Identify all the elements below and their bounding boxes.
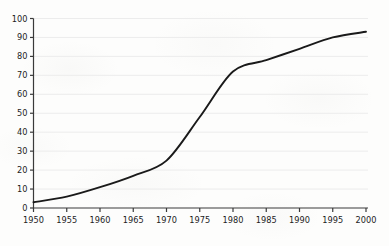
x-tick-label: 1965 bbox=[123, 215, 144, 225]
y-tick-label: 0 bbox=[22, 203, 27, 213]
y-tick-label: 60 bbox=[17, 89, 27, 99]
line-chart: 0102030405060708090100195019551960196519… bbox=[0, 0, 389, 246]
y-tick-label: 40 bbox=[17, 127, 27, 137]
x-tick-label: 1960 bbox=[90, 215, 111, 225]
y-tick-label: 80 bbox=[17, 51, 27, 61]
y-tick-label: 50 bbox=[17, 108, 27, 118]
data-line-series-0 bbox=[34, 32, 367, 203]
x-tick-label: 1995 bbox=[322, 215, 343, 225]
gridlines bbox=[34, 19, 369, 190]
y-tick-label: 100 bbox=[12, 14, 28, 24]
plot-area: 0102030405060708090100195019551960196519… bbox=[0, 0, 389, 246]
x-tick-label: 1975 bbox=[189, 215, 210, 225]
y-axis-ticks: 0102030405060708090100 bbox=[12, 14, 34, 214]
x-tick-label: 1970 bbox=[156, 215, 177, 225]
y-tick-label: 90 bbox=[17, 32, 27, 42]
y-tick-label: 30 bbox=[17, 146, 27, 156]
x-tick-label: 1950 bbox=[23, 215, 44, 225]
x-tick-label: 1955 bbox=[56, 215, 77, 225]
y-tick-label: 20 bbox=[17, 165, 27, 175]
x-axis-ticks: 1950195519601965197019751980198519901995… bbox=[23, 208, 376, 225]
y-tick-label: 70 bbox=[17, 70, 27, 80]
x-tick-label: 1980 bbox=[223, 215, 244, 225]
x-tick-label: 2000 bbox=[356, 215, 377, 225]
x-tick-label: 1985 bbox=[256, 215, 277, 225]
x-tick-label: 1990 bbox=[289, 215, 310, 225]
y-tick-label: 10 bbox=[17, 184, 27, 194]
